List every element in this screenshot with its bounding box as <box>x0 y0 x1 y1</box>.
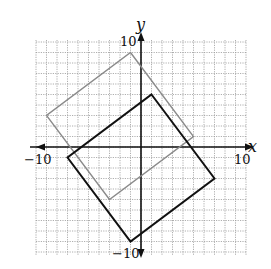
x-axis-arrow-left-icon <box>36 144 45 151</box>
y-axis-label: y <box>135 15 146 34</box>
y-tick-min: −10 <box>112 246 139 261</box>
coordinate-plane: x y −10 10 10 −10 <box>0 0 271 269</box>
axes <box>30 32 254 258</box>
x-tick-min: −10 <box>24 152 51 167</box>
x-tick-max: 10 <box>234 152 251 167</box>
y-tick-max: 10 <box>120 34 137 49</box>
